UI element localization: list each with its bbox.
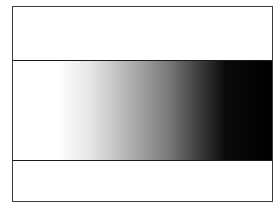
figure-frame (12, 6, 273, 202)
bottom-band (13, 161, 272, 201)
top-band (13, 7, 272, 60)
gradient-band (13, 60, 272, 161)
